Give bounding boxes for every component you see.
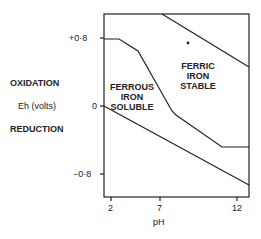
reduction-label: REDUCTION [10,124,64,134]
ferrous-region-label: FERROUS IRON SOLUBLE [106,82,158,112]
ferric-region-label: FERRIC IRON STABLE [176,61,220,91]
ytick-label-neg: −0·8 [73,169,91,179]
ytick-label-pos: +0·8 [69,33,87,43]
lower-boundary-line [104,106,249,185]
eh-ph-diagram [0,0,261,239]
ytick-label-zero: 0 [92,101,97,111]
eh-axis-label: Eh (volts) [18,101,56,111]
xtick-label-2: 2 [108,203,113,213]
x-axis-label: pH [153,217,165,227]
point-marker [187,42,190,45]
xtick-label-12: 12 [232,203,242,213]
oxidation-label: OXIDATION [10,78,59,88]
xtick-label-7: 7 [157,203,162,213]
upper-boundary-line [162,14,249,67]
